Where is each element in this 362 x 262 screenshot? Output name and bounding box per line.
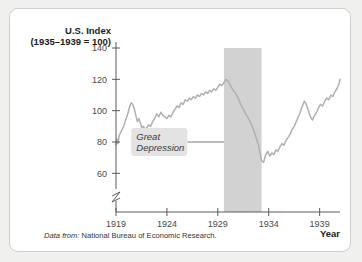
great-depression-band bbox=[224, 48, 262, 212]
y-axis-title-line1: U.S. Index bbox=[65, 25, 112, 36]
x-tick-label: 1919 bbox=[106, 219, 126, 229]
shaded-bands-group bbox=[224, 48, 262, 212]
y-axis-title-line2: (1935–1939 = 100) bbox=[30, 36, 111, 47]
source-note: Data from: National Bureau of Economic R… bbox=[44, 231, 217, 240]
x-tick-label: 1929 bbox=[208, 219, 228, 229]
y-tick-label: 60 bbox=[97, 169, 107, 179]
chart-stage: 6080100120140 19191924192919341939 Great… bbox=[10, 9, 352, 253]
y-tick-label: 100 bbox=[92, 106, 107, 116]
annotation-label-line2: Depression bbox=[136, 142, 184, 153]
source-note-text: National Bureau of Economic Research. bbox=[82, 231, 217, 240]
x-tick-label: 1924 bbox=[157, 219, 177, 229]
source-note-lead: Data from: bbox=[44, 231, 79, 240]
x-tick-label: 1934 bbox=[259, 219, 279, 229]
annotation-label-line1: Great bbox=[136, 131, 160, 142]
x-axis-title: Year bbox=[320, 228, 340, 239]
figure-card: 6080100120140 19191924192919341939 Great… bbox=[9, 8, 351, 252]
y-tick-label: 120 bbox=[92, 75, 107, 85]
annotation-group: Great Depression bbox=[131, 128, 224, 156]
axis-break-icon bbox=[112, 192, 120, 202]
line-chart: 6080100120140 19191924192919341939 Great… bbox=[10, 9, 352, 253]
y-tick-label: 80 bbox=[97, 137, 107, 147]
x-ticks-group: 19191924192919341939 bbox=[106, 208, 330, 229]
